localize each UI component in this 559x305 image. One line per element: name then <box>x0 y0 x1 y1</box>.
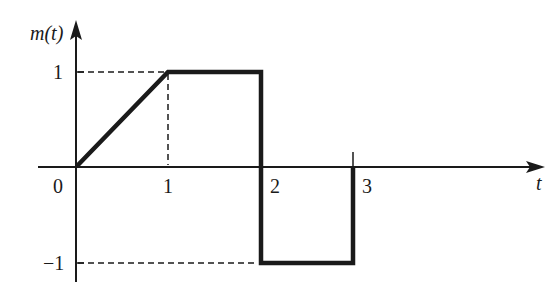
x-tick-label-3: 3 <box>362 175 372 197</box>
y-tick-label-1: 1 <box>53 61 63 83</box>
y-tick-label-neg1: −1 <box>43 252 64 274</box>
origin-label: 0 <box>53 175 63 197</box>
signal-plot: m(t) t 0 1 2 3 1 −1 <box>0 0 559 305</box>
x-axis-label: t <box>536 172 542 194</box>
x-tick-label-1: 1 <box>163 175 173 197</box>
x-tick-label-2: 2 <box>270 175 280 197</box>
y-axis-label: m(t) <box>30 22 64 45</box>
